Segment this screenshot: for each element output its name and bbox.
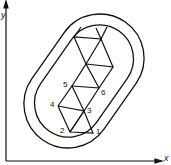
- x-axis-label: x: [164, 154, 169, 163]
- node-label-1: 1: [96, 128, 100, 136]
- node-label-5: 5: [63, 81, 67, 89]
- outer-boundary: [7, 0, 162, 165]
- boundary-curves: [7, 0, 162, 165]
- x-axis-arrow-icon: [155, 159, 162, 163]
- node-label-4: 4: [50, 101, 54, 109]
- inner-boundary: [21, 12, 147, 151]
- node-label-6: 6: [101, 89, 105, 97]
- axes: [4, 1, 162, 163]
- node-label-3: 3: [87, 107, 91, 115]
- diagram: y x 1 2 3 4 5 6: [0, 0, 171, 165]
- y-axis-label: y: [1, 11, 6, 20]
- diagram-canvas: [0, 0, 171, 165]
- node-label-2: 2: [60, 127, 64, 135]
- y-axis-arrow-icon: [4, 1, 8, 8]
